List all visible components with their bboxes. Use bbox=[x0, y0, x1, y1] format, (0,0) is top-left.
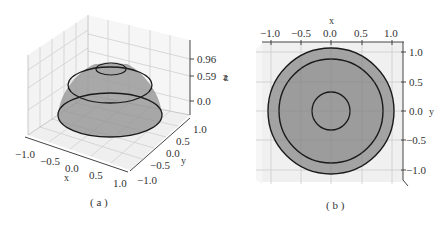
y-tick-label: −0.5 bbox=[150, 159, 170, 171]
x-axis-label-b: x bbox=[329, 15, 334, 26]
z-tick-label: 0.59 bbox=[197, 70, 217, 82]
x-tick-label: 1.0 bbox=[113, 177, 127, 189]
x-tick-label: 1.0 bbox=[384, 27, 398, 39]
z-ticks bbox=[190, 59, 194, 101]
y-tick-label: 0.5 bbox=[176, 135, 190, 147]
y-axis-label-b: y bbox=[429, 106, 434, 117]
x-tick-label: −0.5 bbox=[291, 27, 311, 39]
panel-b-caption: ( b ) bbox=[326, 199, 345, 212]
x-tick-label: −0.5 bbox=[40, 155, 60, 167]
y-tick-label: −0.5 bbox=[406, 134, 426, 146]
figure: 0.96 0.59 0.0 z −1.0 −0.5 0.0 0.5 1.0 x … bbox=[0, 0, 442, 226]
y-axis-foot-b bbox=[403, 180, 408, 186]
z-tick-label: 0.0 bbox=[197, 95, 211, 107]
y-tick-label: 1.0 bbox=[409, 46, 423, 58]
z-axis-label-b: z bbox=[224, 72, 229, 83]
panel-a: 0.96 0.59 0.0 z −1.0 −0.5 0.0 0.5 1.0 x … bbox=[15, 15, 228, 209]
x-tick-label: −1.0 bbox=[260, 27, 280, 39]
z-tick-label: 0.96 bbox=[197, 53, 217, 65]
x-tick-label: −1.0 bbox=[15, 148, 35, 160]
y-tick-label: 0.5 bbox=[409, 76, 423, 88]
y-tick-label: −1.0 bbox=[406, 164, 426, 176]
y-tick-label: 0.0 bbox=[166, 147, 180, 159]
y-tick-label: −1.0 bbox=[137, 174, 157, 186]
x-tick-label: 0.5 bbox=[89, 169, 103, 181]
y-tick-label: 1.0 bbox=[193, 123, 207, 135]
panel-b: −1.0 −0.5 0.0 0.5 1.0 x 1.0 0.5 0.0 −0.5… bbox=[224, 15, 434, 212]
pane-b-side bbox=[256, 44, 262, 184]
y-axis-label: y bbox=[181, 155, 186, 166]
x-axis-label: x bbox=[64, 172, 69, 183]
x-tick-label: 0.0 bbox=[323, 27, 337, 39]
panel-a-caption: ( a ) bbox=[90, 196, 108, 209]
x-tick-label: 0.5 bbox=[354, 27, 368, 39]
y-tick-label: 0.0 bbox=[409, 105, 423, 117]
